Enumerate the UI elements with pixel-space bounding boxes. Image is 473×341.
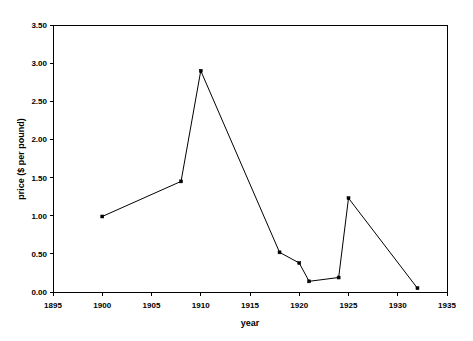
y-tick-label: 1.50 <box>31 174 47 183</box>
x-axis-tick-labels: 189519001905191019151920192519301935 <box>44 301 456 310</box>
x-tick-label: 1930 <box>389 301 407 310</box>
price-series-line <box>102 71 417 288</box>
y-tick-label: 1.00 <box>31 212 47 221</box>
data-point-marker <box>199 69 202 72</box>
x-tick-label: 1905 <box>143 301 161 310</box>
x-tick-label: 1925 <box>340 301 358 310</box>
data-point-marker <box>101 215 104 218</box>
y-axis-title: price ($ per pound) <box>16 118 26 200</box>
axis-frame <box>53 25 447 292</box>
x-tick-label: 1895 <box>44 301 62 310</box>
axis-tick-marks <box>50 25 447 296</box>
chart-figure: 0.000.501.001.502.002.503.003.50 1895190… <box>0 0 473 341</box>
data-point-marker <box>298 262 301 265</box>
y-tick-label: 2.00 <box>31 135 47 144</box>
data-point-marker <box>347 197 350 200</box>
x-tick-label: 1900 <box>93 301 111 310</box>
y-axis-tick-labels: 0.000.501.001.502.002.503.003.50 <box>31 21 47 297</box>
data-point-marker <box>278 251 281 254</box>
data-point-marker <box>180 180 183 183</box>
line-chart-plot: 0.000.501.001.502.002.503.003.50 1895190… <box>0 0 473 341</box>
y-tick-label: 3.00 <box>31 59 47 68</box>
data-point-marker <box>308 280 311 283</box>
y-tick-label: 0.50 <box>31 250 47 259</box>
data-point-marker <box>337 276 340 279</box>
price-series-markers <box>101 69 419 289</box>
y-tick-label: 3.50 <box>31 21 47 30</box>
x-tick-label: 1910 <box>192 301 210 310</box>
x-tick-label: 1935 <box>438 301 456 310</box>
y-tick-label: 0.00 <box>31 288 47 297</box>
x-tick-label: 1915 <box>241 301 259 310</box>
x-axis-title: year <box>241 318 260 328</box>
data-point-marker <box>416 287 419 290</box>
x-tick-label: 1920 <box>290 301 308 310</box>
y-tick-label: 2.50 <box>31 97 47 106</box>
